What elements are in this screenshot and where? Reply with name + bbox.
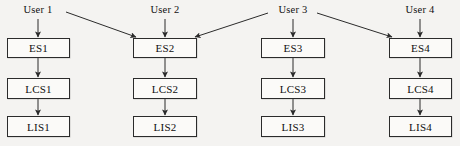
diagram-canvas: ES1ES2ES3ES4LCS1LCS2LCS3LCS4LIS1LIS2LIS3… xyxy=(0,0,460,146)
edge-user1-es2 xyxy=(66,12,136,37)
node-lcs2[interactable]: LCS2 xyxy=(133,78,197,99)
edges-group xyxy=(38,12,420,115)
edge-user3-es2 xyxy=(195,13,268,37)
node-lcs3[interactable]: LCS3 xyxy=(261,78,325,99)
node-label: ES3 xyxy=(284,42,303,54)
node-label: ES1 xyxy=(29,42,48,54)
node-es1[interactable]: ES1 xyxy=(7,38,70,58)
node-label: LCS3 xyxy=(280,83,306,95)
node-label: ES2 xyxy=(156,42,175,54)
node-label: LCS4 xyxy=(407,83,433,95)
node-label: LCS2 xyxy=(152,83,178,95)
node-lis1[interactable]: LIS1 xyxy=(7,116,70,137)
node-label: LIS4 xyxy=(409,121,432,133)
node-lis3[interactable]: LIS3 xyxy=(261,116,325,137)
node-lis4[interactable]: LIS4 xyxy=(389,116,452,137)
node-es3[interactable]: ES3 xyxy=(261,38,325,58)
node-es2[interactable]: ES2 xyxy=(133,38,197,58)
node-es4[interactable]: ES4 xyxy=(389,38,452,58)
node-label: LCS1 xyxy=(25,83,51,95)
user-label-user1: User 1 xyxy=(24,4,53,15)
node-lcs1[interactable]: LCS1 xyxy=(7,78,70,99)
user-label-user4: User 4 xyxy=(406,4,435,15)
edge-user3-es4 xyxy=(317,13,392,37)
user-label-user3: User 3 xyxy=(279,4,308,15)
node-lis2[interactable]: LIS2 xyxy=(133,116,197,137)
node-label: LIS1 xyxy=(27,121,50,133)
user-label-user2: User 2 xyxy=(151,4,180,15)
node-label: LIS2 xyxy=(154,121,177,133)
node-label: ES4 xyxy=(411,42,430,54)
node-lcs4[interactable]: LCS4 xyxy=(389,78,452,99)
node-label: LIS3 xyxy=(282,121,305,133)
